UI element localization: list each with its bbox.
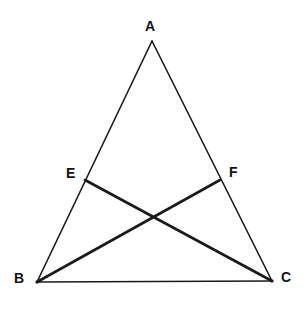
vertex-label-f: F [229,165,238,179]
vertex-label-c: C [281,270,291,284]
vertex-label-e: E [66,166,75,180]
triangle-diagram-canvas [0,0,307,311]
vertex-dot-b [35,280,38,283]
triangle-side-ab [37,41,152,282]
geometry-figure: A B C E F [0,0,307,311]
cevian-segment-ce [85,180,272,281]
vertex-label-b: B [14,271,24,285]
vertex-label-a: A [145,19,155,33]
vertex-dot-c [270,279,273,282]
triangle-side-bc [37,281,272,282]
triangle-side-ac [152,41,272,281]
cevian-segment-bf [37,180,220,282]
